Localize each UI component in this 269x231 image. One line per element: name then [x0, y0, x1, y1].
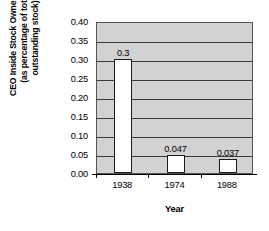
x-axis-tick-mark [96, 174, 97, 178]
bar [219, 159, 237, 173]
y-axis-tick-label: 0.15 [52, 112, 88, 122]
y-axis-tick-label: 0.05 [52, 150, 88, 160]
y-axis-tick-label: 0.00 [52, 169, 88, 179]
gridline [97, 42, 252, 43]
x-axis-tick-mark [201, 174, 202, 178]
x-axis-title: Year [96, 204, 253, 214]
y-axis-tick-label: 0.20 [52, 93, 88, 103]
x-axis-line [92, 174, 257, 175]
bar-value-label: 0.047 [154, 144, 198, 154]
x-axis-tick-label: 1988 [205, 180, 249, 190]
y-axis-tick-label: 0.40 [52, 17, 88, 27]
x-axis-tick-mark [148, 174, 149, 178]
y-axis-tick-label: 0.10 [52, 131, 88, 141]
bar-value-label: 0.037 [206, 148, 250, 158]
y-axis-tick-label: 0.25 [52, 74, 88, 84]
bar-value-label: 0.3 [101, 48, 145, 58]
x-axis-tick-label: 1938 [100, 180, 144, 190]
y-axis-title: CEO Inside Stock Ownership (as percentag… [2, 0, 46, 125]
y-axis-tick-label: 0.30 [52, 55, 88, 65]
bar [114, 59, 132, 173]
plot-area: 0.30.0470.037 [96, 22, 253, 174]
y-axis-tick-label: 0.35 [52, 36, 88, 46]
x-axis-tick-label: 1974 [153, 180, 197, 190]
bar-chart: CEO Inside Stock Ownership (as percentag… [0, 0, 269, 231]
y-axis-tick-labels: 0.400.350.300.250.200.150.100.050.00 [52, 14, 88, 180]
bar [167, 155, 185, 173]
